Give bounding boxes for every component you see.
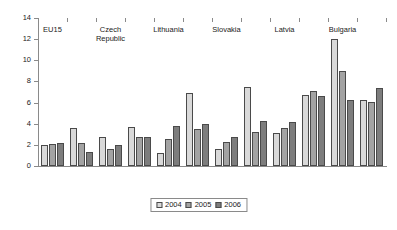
legend-swatch [215, 202, 221, 208]
bar [252, 132, 259, 166]
bar [318, 96, 325, 166]
legend-item: 2004 [156, 201, 182, 209]
bar [260, 121, 267, 166]
bar-group [244, 18, 267, 166]
bar-group [186, 18, 209, 166]
chart-legend: 200420052006 [150, 198, 247, 212]
y-axis-tick-label: 14 [23, 14, 31, 22]
x-axis-tick [67, 18, 68, 22]
bar [128, 127, 135, 166]
y-axis-tick: 0 [34, 166, 38, 167]
y-axis-tick-label: 12 [23, 35, 31, 43]
x-axis-tick [38, 18, 39, 22]
bar [289, 122, 296, 166]
y-axis-tick: 10 [34, 60, 38, 61]
bar [339, 71, 346, 166]
y-axis-tick: 6 [34, 103, 38, 104]
bar [99, 137, 106, 166]
bar [360, 100, 367, 166]
bar [107, 149, 114, 166]
bar [194, 129, 201, 166]
bar-chart: 02468101214 EU15Czech RepublicLithuaniaS… [0, 0, 397, 230]
y-axis-tick: 4 [34, 124, 38, 125]
x-axis-line [38, 166, 387, 167]
bar-group [302, 18, 325, 166]
x-axis-label: Bulgaria [329, 25, 357, 34]
y-axis-tick-label: 0 [27, 162, 31, 170]
bar [331, 39, 338, 166]
bar-group [41, 18, 64, 166]
bar [376, 88, 383, 166]
bar [157, 153, 164, 166]
x-axis-label: Lithuania [153, 25, 183, 34]
x-axis-tick [328, 18, 329, 22]
x-axis-tick [357, 18, 358, 22]
y-axis-tick-label: 8 [27, 78, 31, 86]
y-axis-tick-label: 2 [27, 141, 31, 149]
bar [223, 142, 230, 166]
bar [86, 152, 93, 166]
bar [136, 137, 143, 166]
bar [281, 128, 288, 166]
bar-group [215, 18, 238, 166]
legend-item: 2005 [186, 201, 212, 209]
x-axis-tick [270, 18, 271, 22]
bar [273, 133, 280, 166]
x-axis-label: Czech Republic [96, 25, 125, 43]
x-axis-tick [241, 18, 242, 22]
bar [347, 100, 354, 166]
bar [165, 139, 172, 166]
y-axis-tick-label: 4 [27, 120, 31, 128]
bar [244, 87, 251, 166]
legend-item: 2006 [215, 201, 241, 209]
plot-area: 02468101214 EU15Czech RepublicLithuaniaS… [38, 18, 386, 166]
x-axis-tick [299, 18, 300, 22]
bar-group [273, 18, 296, 166]
x-axis-tick [183, 18, 184, 22]
bar [310, 91, 317, 166]
bar-group [360, 18, 383, 166]
bar-group [331, 18, 354, 166]
bar-group [128, 18, 151, 166]
bar [302, 95, 309, 166]
x-axis-label: Latvia [274, 25, 294, 34]
legend-swatch [186, 202, 192, 208]
x-axis-label: Slovakia [212, 25, 240, 34]
x-axis-tick [154, 18, 155, 22]
bar [202, 124, 209, 166]
y-axis-tick: 8 [34, 81, 38, 82]
y-axis-tick-label: 10 [23, 57, 31, 65]
x-axis-tick [96, 18, 97, 22]
bar [231, 137, 238, 166]
bar-group [70, 18, 93, 166]
bar [368, 102, 375, 166]
bar [215, 149, 222, 166]
x-axis-tick [212, 18, 213, 22]
x-axis-tick [386, 18, 387, 22]
bar [144, 137, 151, 166]
legend-swatch [156, 202, 162, 208]
x-axis-tick [125, 18, 126, 22]
y-axis-tick-label: 6 [27, 99, 31, 107]
bar [186, 93, 193, 166]
bar [49, 144, 56, 166]
bar [70, 128, 77, 166]
bar [57, 143, 64, 166]
legend-label: 2006 [224, 201, 241, 209]
x-axis-label: EU15 [43, 25, 62, 34]
bar [41, 145, 48, 166]
bar [173, 126, 180, 166]
bar [78, 143, 85, 166]
bar-group [157, 18, 180, 166]
y-axis-tick: 12 [34, 39, 38, 40]
y-axis-tick: 2 [34, 145, 38, 146]
bar [115, 145, 122, 166]
legend-label: 2004 [165, 201, 182, 209]
legend-label: 2005 [195, 201, 212, 209]
